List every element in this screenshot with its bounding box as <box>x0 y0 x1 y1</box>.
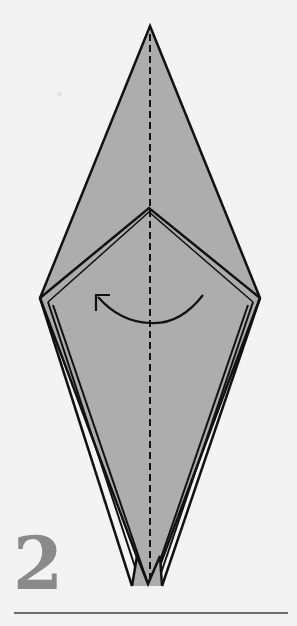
step-divider-rule <box>14 612 288 614</box>
step-number: 2 <box>13 528 63 600</box>
origami-step-page: 2 <box>0 0 297 626</box>
